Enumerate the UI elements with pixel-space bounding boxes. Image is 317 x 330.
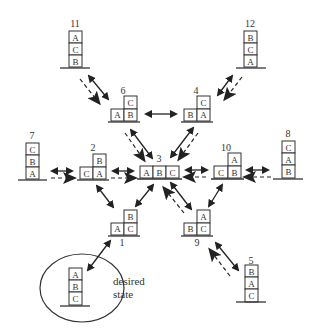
block: B	[29, 157, 35, 167]
state-label: 3	[157, 153, 162, 164]
block: C	[285, 143, 291, 153]
state-3: 3 A B C	[137, 153, 182, 179]
block: C	[72, 45, 78, 55]
block: B	[72, 282, 78, 292]
edge-9-3	[171, 183, 191, 209]
block: A	[248, 279, 255, 289]
edge-9-3-dashed	[164, 188, 184, 213]
state-label: 12	[245, 18, 255, 29]
block: C	[218, 168, 224, 178]
edge-4-3-dashed	[179, 133, 198, 159]
block: A	[247, 57, 254, 67]
block: B	[72, 57, 78, 67]
state-5: 5 B A C	[236, 255, 266, 302]
state-1: B A C 1	[108, 210, 140, 248]
state-space-diagram: 11 A C B 12 B C A 6 C A B 4 C B A 7 C B …	[0, 0, 317, 330]
block: A	[96, 169, 103, 179]
block: B	[248, 267, 254, 277]
block: A	[72, 33, 79, 43]
block: C	[127, 98, 133, 108]
edge-2-1	[97, 186, 113, 207]
edge-5-9-dashed	[210, 250, 230, 276]
edge-5-9	[216, 243, 238, 270]
block: B	[231, 168, 237, 178]
state-label: 1	[120, 237, 125, 248]
block: C	[72, 294, 78, 304]
block: A	[285, 155, 292, 165]
block: A	[200, 110, 207, 120]
block: A	[231, 155, 238, 165]
block: B	[127, 212, 133, 222]
desired-label-line2: state	[113, 288, 133, 300]
block: C	[200, 224, 206, 234]
block: C	[83, 169, 89, 179]
state-label: 9	[195, 237, 200, 248]
edge-11-6-dashed	[80, 79, 99, 103]
edge-1-desired	[88, 241, 110, 270]
block: A	[200, 212, 207, 222]
state-label: 7	[30, 130, 35, 141]
state-11: 11 A C B	[60, 18, 90, 68]
block: B	[285, 167, 291, 177]
edge-3-1	[136, 185, 153, 206]
state-4: 4 C B A	[181, 85, 213, 122]
state-7: 7 C B A	[18, 130, 47, 180]
block: B	[156, 168, 162, 178]
block: C	[29, 145, 35, 155]
state-6: 6 C A B	[108, 85, 140, 122]
edge-6-3	[131, 130, 152, 158]
state-label: 10	[221, 142, 231, 153]
state-label: 8	[286, 128, 291, 139]
edge-12-4	[218, 76, 232, 95]
block: A	[143, 168, 150, 178]
state-2: 2 B C A	[77, 142, 109, 180]
block: B	[127, 110, 133, 120]
block: A	[29, 169, 36, 179]
state-12: 12 B C A	[236, 18, 266, 68]
block: C	[127, 224, 133, 234]
block: C	[169, 168, 175, 178]
block: C	[247, 45, 253, 55]
edge-12-4-dashed	[225, 77, 242, 99]
state-8: 8 C A B	[273, 128, 303, 179]
block: B	[187, 110, 193, 120]
state-10: 10 A C B	[211, 142, 244, 179]
state-label: 2	[91, 142, 96, 153]
desired-label-line1: desired	[113, 275, 145, 287]
state-9: A B C 9	[181, 210, 213, 248]
block: C	[248, 291, 254, 301]
block: A	[114, 224, 121, 234]
edge-4-3	[171, 128, 193, 157]
block: B	[187, 224, 193, 234]
block: A	[72, 270, 79, 280]
block: B	[96, 156, 102, 166]
block: A	[114, 110, 121, 120]
edge-6-3-dashed	[125, 133, 144, 160]
block: B	[247, 33, 253, 43]
state-label: 5	[249, 255, 254, 266]
edge-11-6	[89, 76, 108, 99]
block: C	[200, 98, 206, 108]
state-label: 11	[70, 18, 80, 29]
state-label: 6	[121, 85, 126, 96]
state-label: 4	[194, 85, 199, 96]
edge-10-9	[209, 185, 222, 206]
